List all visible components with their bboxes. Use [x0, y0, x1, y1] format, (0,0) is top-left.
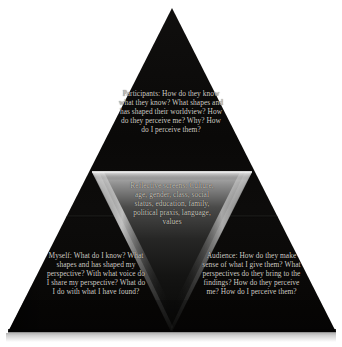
diagram-labels: Participants: How do they know what they…	[0, 0, 342, 347]
myself-label: Myself: What do I know? What shapes and …	[46, 251, 146, 296]
reflexivity-pyramid-diagram: Participants: How do they know what they…	[0, 0, 342, 347]
reflective-screens-label: Reflective screens: Culture, age, gender…	[125, 181, 219, 226]
audience-label: Audience: How do they make sense of what…	[201, 251, 302, 296]
participants-label: Participants: How do they know what they…	[118, 89, 224, 134]
